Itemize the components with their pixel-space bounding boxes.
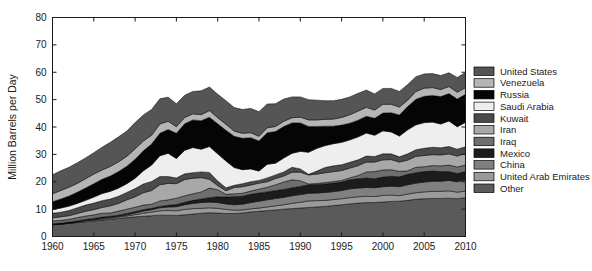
legend-item-kuwait[interactable]: Kuwait — [474, 113, 529, 124]
legend-item-other[interactable]: Other — [474, 183, 524, 194]
legend-label: Iran — [500, 124, 516, 135]
y-axis-title-text: Million Barrels per Day — [6, 73, 18, 179]
x-tick-label: 1975 — [165, 241, 188, 252]
legend-item-united-arab-emirates[interactable]: United Arab Emirates — [474, 171, 590, 182]
legend-swatch — [474, 102, 494, 111]
legend-label: Iraq — [500, 136, 516, 147]
y-tick-label: 80 — [35, 12, 47, 23]
x-tick-label: 1965 — [83, 241, 106, 252]
legend-item-mexico[interactable]: Mexico — [474, 148, 530, 159]
legend-swatch — [474, 149, 494, 158]
y-tick-label: 60 — [35, 67, 47, 78]
legend-item-saudi-arabia[interactable]: Saudi Arabia — [474, 101, 555, 112]
legend-label: Kuwait — [500, 113, 529, 124]
x-tick-label: 1970 — [124, 241, 147, 252]
y-axis-title: Million Barrels per Day — [6, 73, 18, 179]
x-tick-label: 2005 — [413, 241, 436, 252]
legend-label: Other — [500, 183, 524, 194]
chart-figure: 01020304050607080 1960196519701975198019… — [0, 0, 592, 271]
legend-label: United Arab Emirates — [500, 171, 590, 182]
legend-swatch — [474, 126, 494, 135]
stacked-area-chart: 01020304050607080 1960196519701975198019… — [0, 0, 592, 271]
x-tick-label: 1980 — [207, 241, 230, 252]
y-tick-label: 30 — [35, 149, 47, 160]
plot-bands — [53, 73, 466, 237]
legend-item-venezuela[interactable]: Venezuela — [474, 77, 545, 88]
legend-swatch — [474, 172, 494, 181]
y-tick-label: 50 — [35, 94, 47, 105]
x-tick-label: 1960 — [41, 241, 64, 252]
legend-label: Russia — [500, 89, 530, 100]
legend-swatch — [474, 79, 494, 88]
legend-label: United States — [500, 66, 557, 77]
legend-label: Venezuela — [500, 77, 545, 88]
legend-label: China — [500, 159, 526, 170]
legend-swatch — [474, 161, 494, 170]
chart-legend: United StatesVenezuelaRussiaSaudi Arabia… — [474, 66, 590, 194]
legend-item-russia[interactable]: Russia — [474, 89, 530, 100]
legend-swatch — [474, 184, 494, 193]
legend-label: Mexico — [500, 148, 530, 159]
x-tick-label: 2000 — [372, 241, 395, 252]
x-tick-label: 1985 — [248, 241, 271, 252]
y-tick-label: 10 — [35, 204, 47, 215]
legend-item-iraq[interactable]: Iraq — [474, 136, 516, 147]
y-tick-label: 20 — [35, 176, 47, 187]
y-tick-label: 70 — [35, 39, 47, 50]
legend-item-united-states[interactable]: United States — [474, 66, 557, 77]
x-tick-label: 1990 — [289, 241, 312, 252]
x-tick-label: 1995 — [330, 241, 353, 252]
legend-swatch — [474, 67, 494, 76]
legend-swatch — [474, 114, 494, 123]
legend-item-china[interactable]: China — [474, 159, 526, 170]
legend-swatch — [474, 137, 494, 146]
legend-label: Saudi Arabia — [500, 101, 555, 112]
x-tick-label: 2010 — [454, 241, 477, 252]
legend-swatch — [474, 90, 494, 99]
y-tick-label: 40 — [35, 122, 47, 133]
legend-item-iran[interactable]: Iran — [474, 124, 516, 135]
